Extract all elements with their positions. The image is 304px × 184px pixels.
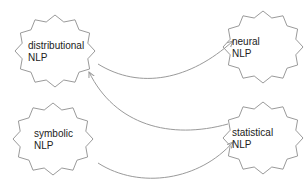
edge-statistical-to-distributional[interactable] [89,72,228,130]
node-symbolic-label: symbolic NLP [34,128,73,152]
edge-distributional-to-neural[interactable] [98,41,233,78]
node-statistical-label: statistical NLP [232,127,273,151]
node-symbolic-line2: NLP [34,140,73,152]
node-neural-line1: neural [232,36,260,48]
diagram-canvas [0,0,304,184]
node-statistical-line1: statistical [232,127,273,139]
node-distributional-line2: NLP [28,52,84,64]
node-statistical-line2: NLP [232,139,273,151]
node-distributional-line1: distributional [28,40,84,52]
node-neural-label: neural NLP [232,36,260,60]
node-symbolic-line1: symbolic [34,128,73,140]
edge-symbolic-to-statistical[interactable] [98,142,233,178]
node-neural-line2: NLP [232,48,260,60]
node-distributional-label: distributional NLP [28,40,84,64]
